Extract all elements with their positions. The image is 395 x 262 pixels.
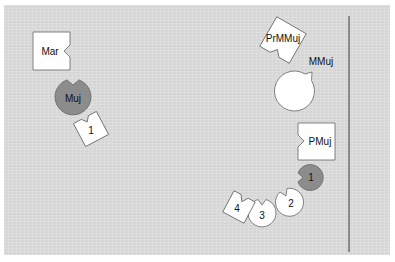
node-one-right-label: 1 [308, 172, 314, 183]
node-pmuj: PMuj [298, 123, 335, 160]
node-pmuj-label: PMuj [309, 136, 332, 147]
diagram: Mar Muj 1 PrMMuj MMuj PMuj 1 2 3 [0, 0, 395, 262]
node-mmuj: MMuj [274, 56, 333, 112]
node-prmmuj: PrMMuj [258, 16, 306, 63]
node-prmmuj-label: PrMMuj [266, 33, 300, 44]
node-two: 2 [276, 188, 304, 216]
node-one-left-label: 1 [88, 125, 94, 136]
node-muj: Muj [55, 80, 91, 115]
node-two-label: 2 [288, 198, 294, 209]
node-three-label: 3 [259, 210, 265, 221]
node-mmuj-label: MMuj [309, 56, 333, 67]
node-mar-label: Mar [41, 46, 59, 57]
node-muj-label: Muj [65, 93, 81, 104]
node-four-label: 4 [234, 203, 240, 214]
node-mar: Mar [33, 32, 70, 70]
node-one-right: 1 [298, 165, 323, 191]
node-one-left: 1 [73, 111, 108, 146]
